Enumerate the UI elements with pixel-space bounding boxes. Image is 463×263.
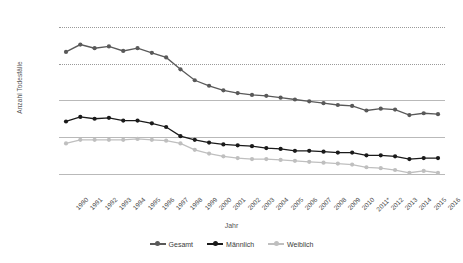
data-point — [436, 156, 440, 160]
line-chart: Anzahl Todesfälle Jahr 20.00040.00060.00… — [0, 0, 463, 263]
data-point — [93, 117, 97, 121]
legend-item[interactable]: Männlich — [207, 240, 254, 248]
data-point — [150, 121, 154, 125]
data-point — [293, 97, 297, 101]
data-point — [279, 147, 283, 151]
data-point — [178, 67, 182, 71]
data-point — [250, 93, 254, 97]
data-point — [321, 161, 325, 165]
data-point — [293, 159, 297, 163]
data-point — [107, 138, 111, 142]
data-point — [107, 44, 111, 48]
data-point — [164, 55, 168, 59]
data-point — [78, 138, 82, 142]
legend-label: Gesamt — [169, 241, 194, 248]
data-point — [135, 46, 139, 50]
data-point — [150, 138, 154, 142]
data-point — [236, 156, 240, 160]
data-point — [350, 151, 354, 155]
data-point — [321, 150, 325, 154]
data-point — [164, 139, 168, 143]
data-point — [393, 107, 397, 111]
data-point — [393, 168, 397, 172]
data-point — [393, 154, 397, 158]
data-point — [164, 125, 168, 129]
data-point — [64, 119, 68, 123]
x-axis-tick-label: 2016 — [446, 196, 461, 211]
legend-item[interactable]: Weiblich — [268, 240, 313, 248]
data-point — [407, 171, 411, 175]
data-point — [407, 113, 411, 117]
data-point — [336, 162, 340, 166]
data-point — [307, 99, 311, 103]
data-point — [293, 149, 297, 153]
data-point — [264, 157, 268, 161]
data-point — [250, 144, 254, 148]
data-point — [336, 151, 340, 155]
legend-label: Männlich — [226, 241, 254, 248]
data-point — [379, 107, 383, 111]
data-point — [207, 140, 211, 144]
data-point — [350, 104, 354, 108]
legend-marker-icon — [268, 240, 284, 248]
data-point — [121, 138, 125, 142]
data-point — [350, 162, 354, 166]
data-point — [407, 157, 411, 161]
data-point — [321, 101, 325, 105]
data-point — [279, 158, 283, 162]
data-point — [379, 166, 383, 170]
legend-marker-icon — [150, 240, 166, 248]
data-point — [422, 156, 426, 160]
data-point — [193, 148, 197, 152]
data-point — [307, 160, 311, 164]
legend-marker-icon — [207, 240, 223, 248]
data-point — [250, 157, 254, 161]
data-point — [221, 154, 225, 158]
data-point — [121, 49, 125, 53]
data-point — [178, 134, 182, 138]
data-point — [422, 111, 426, 115]
data-point — [207, 84, 211, 88]
data-point — [64, 141, 68, 145]
data-point — [307, 149, 311, 153]
series-line — [66, 45, 438, 116]
legend-label: Weiblich — [287, 241, 313, 248]
data-point — [107, 116, 111, 120]
data-point — [336, 103, 340, 107]
data-point — [78, 42, 82, 46]
data-point — [207, 151, 211, 155]
plot-area: 20.00040.00060.00080.000100.000 19901991… — [59, 18, 445, 192]
series-line — [66, 117, 438, 159]
data-point — [93, 138, 97, 142]
data-point — [193, 138, 197, 142]
data-point — [364, 165, 368, 169]
data-point — [364, 153, 368, 157]
series-layer — [59, 18, 445, 252]
data-point — [221, 142, 225, 146]
legend-item[interactable]: Gesamt — [150, 240, 194, 248]
data-point — [279, 96, 283, 100]
data-point — [264, 94, 268, 98]
data-point — [364, 108, 368, 112]
data-point — [264, 146, 268, 150]
data-point — [236, 143, 240, 147]
data-point — [78, 115, 82, 119]
data-point — [178, 141, 182, 145]
data-point — [436, 112, 440, 116]
data-point — [436, 171, 440, 175]
y-axis-title: Anzahl Todesfälle — [16, 33, 23, 143]
data-point — [150, 51, 154, 55]
data-point — [193, 78, 197, 82]
data-point — [422, 169, 426, 173]
data-point — [64, 50, 68, 54]
data-point — [121, 118, 125, 122]
data-point — [236, 91, 240, 95]
data-point — [135, 137, 139, 141]
data-point — [221, 88, 225, 92]
data-point — [379, 153, 383, 157]
data-point — [135, 118, 139, 122]
chart-legend: GesamtMännlichWeiblich — [0, 240, 463, 248]
data-point — [93, 46, 97, 50]
